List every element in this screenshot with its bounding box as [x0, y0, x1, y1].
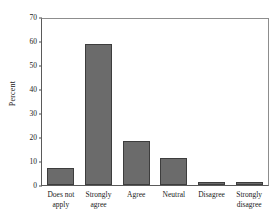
bar-slot [42, 19, 80, 185]
y-axis-tick-label: 20 [30, 134, 38, 142]
bar-slot [117, 19, 155, 185]
bar [160, 158, 187, 185]
y-axis-tick-label: 30 [30, 110, 38, 118]
bar-series [42, 19, 268, 185]
x-axis-tick-label: Does notapply [42, 190, 80, 222]
x-axis-tick-label-line1: Neutral [163, 190, 186, 199]
bar [236, 182, 263, 185]
y-axis-tick-label: 0 [33, 182, 37, 190]
bar [198, 182, 225, 185]
y-axis-tick-label: 10 [30, 158, 38, 166]
x-axis-tick-label-line2: agree [81, 200, 117, 210]
bar [47, 168, 74, 185]
x-axis-tick-label: Disagree [193, 190, 231, 222]
x-axis-tick-label: Agree [117, 190, 155, 222]
x-axis-tick-label-line1: Strongly [86, 190, 112, 199]
y-axis-label: Percent [6, 0, 20, 186]
x-axis-tick-label-line1: Agree [127, 190, 145, 199]
x-axis-tick-label: Neutral [155, 190, 193, 222]
y-axis-label-text: Percent [9, 80, 18, 105]
bar [85, 44, 112, 185]
x-axis-tick-label-line1: Disagree [198, 190, 225, 199]
bar-chart-figure: Percent 010203040506070 Does notapplyStr… [0, 0, 275, 224]
x-axis-tick-label: Stronglyagree [80, 190, 118, 222]
bar-slot [80, 19, 118, 185]
x-axis-tick-label-line2: disagree [231, 200, 267, 210]
bar [123, 141, 150, 185]
y-axis-tick-label: 50 [30, 62, 38, 70]
y-axis-tick-label: 70 [30, 14, 38, 22]
bar-slot [230, 19, 268, 185]
x-axis-tick-label-line1: Strongly [236, 190, 262, 199]
x-axis-tick-labels: Does notapplyStronglyagreeAgreeNeutralDi… [42, 190, 268, 222]
x-axis-tick-label-line2: apply [43, 200, 79, 210]
y-axis-tick-label: 40 [30, 86, 38, 94]
bar-slot [155, 19, 193, 185]
y-axis-tick-labels: 010203040506070 [20, 18, 37, 186]
y-axis-tick-label: 60 [30, 38, 38, 46]
x-axis-tick-label-line1: Does not [47, 190, 74, 199]
bar-slot [193, 19, 231, 185]
x-axis-tick-label: Stronglydisagree [230, 190, 268, 222]
